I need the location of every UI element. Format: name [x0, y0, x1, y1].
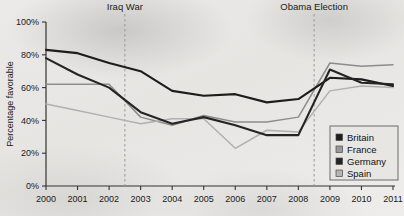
favorability-line-chart: 0%20%40%60%80%100%Percentage favorable20… [0, 0, 404, 216]
x-axis-tick-label: 2002 [99, 194, 119, 204]
x-axis-tick-label: 2001 [68, 194, 88, 204]
x-axis-tick-label: 2007 [257, 194, 277, 204]
legend-label-france: France [347, 144, 377, 155]
legend-swatch-spain [336, 170, 343, 177]
y-axis-tick-label: 100% [16, 17, 39, 27]
x-axis-tick-label: 2004 [162, 194, 182, 204]
x-axis-tick-label: 2005 [194, 194, 214, 204]
legend-swatch-britain [336, 134, 343, 141]
y-axis-tick-label: 80% [21, 50, 39, 60]
y-axis-title: Percentage favorable [5, 61, 15, 147]
annotation-label: Obama Election [280, 1, 348, 12]
legend-label-germany: Germany [347, 156, 386, 167]
y-axis-tick-label: 20% [21, 148, 39, 158]
y-axis-tick-label: 0% [26, 181, 39, 191]
y-axis-tick-label: 60% [21, 83, 39, 93]
legend-label-britain: Britain [347, 132, 374, 143]
x-axis-tick-label: 2010 [351, 194, 371, 204]
legend-swatch-france [336, 146, 343, 153]
legend-swatch-germany [336, 158, 343, 165]
x-axis-tick-label: 2000 [36, 194, 56, 204]
series-line-germany [46, 58, 393, 135]
series-line-britain [46, 50, 393, 102]
x-axis-tick-label: 2009 [320, 194, 340, 204]
legend-label-spain: Spain [347, 168, 371, 179]
annotation-label: Iraq War [107, 1, 143, 12]
x-axis-tick-label: 2006 [225, 194, 245, 204]
x-axis-tick-label: 2008 [288, 194, 308, 204]
x-axis-tick-label: 2011 [383, 194, 402, 204]
chart-canvas: 0%20%40%60%80%100%Percentage favorable20… [0, 0, 404, 216]
y-axis-tick-label: 40% [21, 116, 39, 126]
x-axis-tick-label: 2003 [131, 194, 151, 204]
